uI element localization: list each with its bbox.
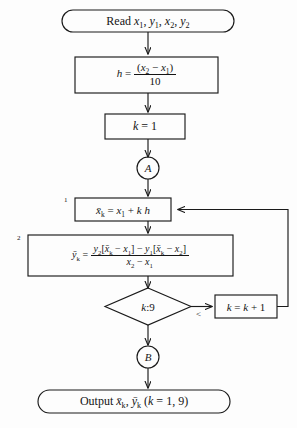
k-init-shape: [105, 114, 185, 139]
ybar-step-number: 2: [17, 234, 21, 242]
connector-b-label: B: [137, 346, 159, 368]
k-increment-shape: [215, 295, 277, 318]
decision-shape: [105, 288, 191, 325]
output-terminator-shape: [38, 390, 230, 413]
h-step-shape: [75, 57, 218, 93]
ybar-step-shape: [28, 235, 233, 276]
read-terminator-shape: [62, 10, 234, 32]
xbar-step-number: 1: [64, 196, 68, 204]
flowchart-canvas: Read x1, y1, x2, y2 h = (x2 − x1)10 k = …: [0, 0, 297, 428]
xbar-step-shape: [75, 198, 171, 221]
decision-branch-label: <: [196, 309, 201, 319]
connector-a-label: A: [137, 157, 159, 179]
